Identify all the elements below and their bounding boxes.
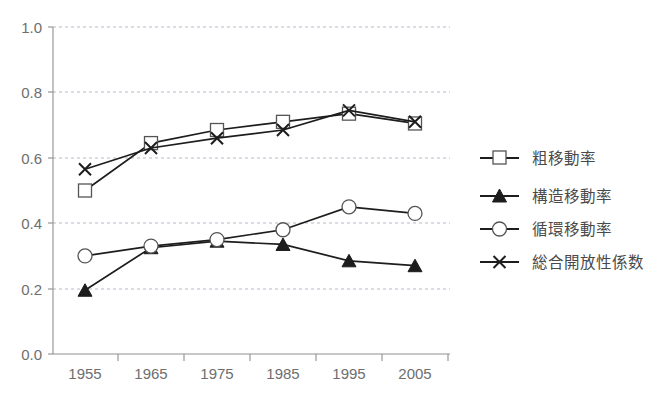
open-circle-marker[interactable] (210, 233, 224, 247)
series-line (85, 207, 415, 256)
line-chart: 1.0 0.8 0.6 0.4 0.2 0.0 1955 1965 1975 1… (0, 0, 657, 401)
gridlines (53, 27, 450, 289)
open-circle-marker[interactable] (408, 206, 422, 220)
open-square-marker[interactable] (79, 184, 92, 197)
open-circle-marker[interactable] (276, 223, 290, 237)
x-tick-label: 1985 (266, 365, 299, 382)
series-1 (79, 107, 422, 197)
open-circle-marker[interactable] (342, 200, 356, 214)
legend-label: 循環移動率 (532, 221, 612, 238)
open-square-icon (493, 151, 506, 164)
legend-label: 構造移動率 (532, 188, 612, 205)
series-line (85, 114, 415, 191)
legend-item-0[interactable]: 粗移動率 (480, 150, 596, 167)
legend-item-1[interactable]: 構造移動率 (480, 188, 612, 205)
legend-item-2[interactable]: 循環移動率 (480, 221, 612, 238)
open-square-marker[interactable] (409, 117, 422, 130)
y-axis-labels: 1.0 0.8 0.6 0.4 0.2 0.0 (21, 19, 42, 363)
filled-triangle-marker[interactable] (78, 284, 92, 297)
y-tick-label: 0.2 (21, 281, 42, 298)
series-3 (78, 200, 422, 263)
x-axis-tickmarks (118, 354, 448, 361)
x-tick-label: 1995 (332, 365, 365, 382)
series-4 (79, 104, 421, 175)
y-tick-label: 0.8 (21, 84, 42, 101)
y-tick-label: 0.4 (21, 215, 42, 232)
x-axis-labels: 1955 1965 1975 1985 1995 2005 (68, 365, 431, 382)
legend: 粗移動率 構造移動率 循環移動率 総合開放性係数 (480, 150, 644, 271)
legend-label: 総合開放性係数 (532, 254, 644, 271)
y-axis-tickmarks (48, 27, 53, 354)
legend-item-3[interactable]: 総合開放性係数 (480, 254, 644, 271)
open-circle-marker[interactable] (78, 249, 92, 263)
series-2 (78, 235, 422, 297)
axes (53, 27, 450, 354)
open-circle-marker[interactable] (144, 239, 158, 253)
open-circle-icon (493, 222, 507, 236)
y-tick-label: 0.0 (21, 346, 42, 363)
chart-container: 1.0 0.8 0.6 0.4 0.2 0.0 1955 1965 1975 1… (0, 0, 657, 401)
y-tick-label: 0.6 (21, 150, 42, 167)
x-tick-label: 1965 (134, 365, 167, 382)
series-line (85, 110, 415, 169)
x-tick-label: 1955 (68, 365, 101, 382)
legend-label: 粗移動率 (532, 150, 596, 167)
y-tick-label: 1.0 (21, 19, 42, 36)
cross-x-marker[interactable] (79, 163, 91, 175)
series-layer (78, 104, 422, 296)
x-tick-label: 1975 (200, 365, 233, 382)
x-tick-label: 2005 (398, 365, 431, 382)
